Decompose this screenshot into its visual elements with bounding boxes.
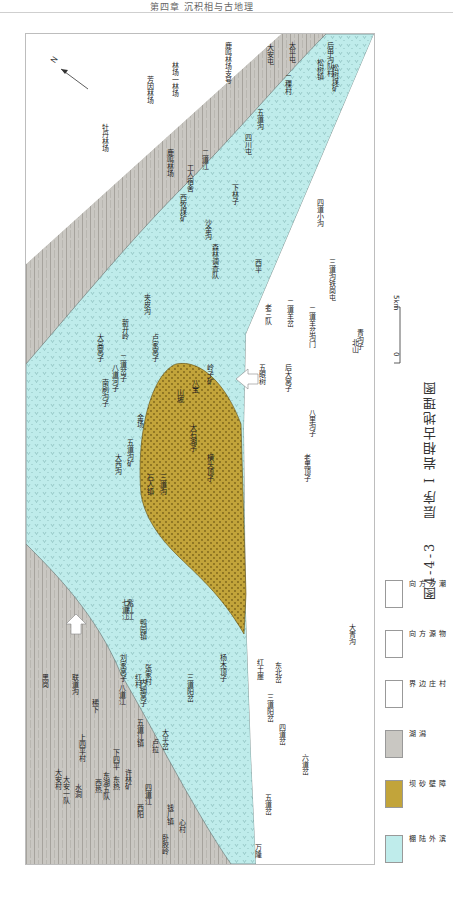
place-label: 水洞 [74, 784, 81, 798]
place-label: 芳因林场 [146, 76, 153, 104]
place-label: 沙金沟 [204, 219, 211, 240]
place-label: 太平屯 [288, 42, 295, 63]
place-label: 卢家窝子 [151, 334, 158, 362]
place-label: 稀下 [91, 699, 98, 713]
place-label: 八里沟子 [308, 409, 315, 437]
place-label: 心村 [178, 819, 185, 833]
place-label: 黑岗 [41, 674, 48, 688]
place-label: 三道阳岔 [186, 674, 193, 702]
place-label: 西牧煤矿 [179, 194, 186, 222]
place-label: 四道岔 [278, 724, 285, 745]
place-label: 五眼树 [258, 364, 265, 385]
place-label: 三道沟铁岗屯 [328, 259, 335, 301]
place-label: 杨木顶子 [219, 654, 226, 682]
place-label: 松树镇 [316, 59, 323, 80]
place-label: 大高窝子 [96, 334, 103, 362]
place-label: 二道羊岔沟门 [308, 306, 315, 348]
place-label: 钱厂镇 [166, 804, 173, 825]
place-label: 后大窝子 [284, 364, 291, 392]
source-direction-icon [385, 630, 403, 658]
place-label: 老黑顶子 [303, 454, 310, 482]
place-label: 四道江 [144, 784, 151, 805]
place-label: 山坡 [176, 389, 183, 403]
place-label: 八道江 [118, 684, 125, 705]
place-label: 大安村 [54, 769, 61, 790]
place-label: 三道沟 [159, 474, 166, 495]
place-label: 森林调查队 [211, 244, 218, 279]
place-label: 刘家窝子 [119, 654, 126, 682]
place-label: 大石湖子 [189, 424, 196, 452]
barrier-bar-swatch [385, 780, 403, 808]
place-label: 八宝 [191, 379, 198, 393]
place-label: 五道岔 [264, 794, 271, 815]
offshore-shelf-swatch [385, 835, 403, 863]
place-label: 青沟子 [356, 329, 363, 350]
place-label: 横头顶子 [206, 454, 213, 482]
place-label: 老三队 [264, 304, 271, 325]
paleogeography-map: N 鹿鸣林场支号 芳因林场 林场一林场 牡丹林场 西热 东湖五队 东热 大安村 … [25, 33, 375, 865]
place-label: 许林矿 [124, 769, 131, 790]
place-label: 红土崖 [256, 659, 263, 680]
place-label: 二棵村 [284, 74, 291, 95]
place-label: 夹皮沟 [143, 294, 150, 315]
place-label: 南刷沟子 [101, 379, 108, 407]
place-label: 石人镇 [146, 474, 153, 495]
place-label: 林场一林场 [171, 62, 178, 97]
lagoon-swatch [385, 730, 403, 758]
place-label: 四道小沟 [316, 199, 323, 227]
place-label: 工人宿舍 [186, 164, 193, 192]
place-label: 鹿鸣林场支号 [224, 42, 231, 84]
legend: 滨外陆棚 障壁砂坝 潟湖 村庄边界 物源方向 潮汐方向 [385, 580, 425, 880]
place-label: 东湖五队 [102, 772, 109, 800]
place-label: 新开岭 [121, 319, 128, 340]
place-label: 张家村 [144, 664, 151, 685]
place-label: 松树煤矿 [331, 64, 338, 92]
place-label: 下林子 [231, 184, 238, 205]
place-label: 西阳 [136, 804, 143, 818]
place-label: 大西沟 [114, 454, 121, 475]
place-label: 鸭园镇 [139, 619, 146, 640]
place-label: 五道沟 [256, 109, 263, 130]
place-label: 联道沟 [71, 674, 78, 695]
scale-length: 5km [392, 295, 400, 310]
place-label: 八道河子 [111, 364, 118, 392]
tide-direction-icon [385, 580, 403, 608]
place-label: 二道江 [201, 149, 208, 170]
place-label: 大青沟 [348, 624, 355, 645]
page-header: 第四章 沉积相与古地理 [0, 0, 453, 13]
place-label: 下四平 [112, 749, 119, 770]
place-label: 东热 [112, 776, 119, 790]
place-label: 六道岔 [301, 754, 308, 775]
page-header-text: 第四章 沉积相与古地理 [150, 0, 254, 13]
place-label: 四川屯 [244, 134, 251, 155]
place-label: 七道江 [121, 599, 128, 620]
figure-caption: 图4-4-3 层序 I 岩相古地理图 [420, 380, 439, 600]
place-label: 卢拉 [151, 739, 158, 753]
village-boundary-swatch [385, 680, 403, 708]
place-label: 三道阳岔 [266, 694, 273, 722]
place-label: 大安屯 [266, 44, 273, 65]
place-label: 大平岔 [161, 729, 168, 750]
place-label: 西平 [254, 259, 261, 273]
place-label: 上四平村 [78, 734, 85, 762]
place-label: 东北岔 [274, 662, 281, 683]
scale-zero: 0 [392, 352, 400, 356]
place-label: 岭子矿 [206, 364, 213, 385]
place-label: 二道羊岔 [286, 299, 293, 327]
place-label: 二道岔子 [119, 354, 126, 382]
place-label: 大安一队 [62, 776, 69, 804]
place-label: 牡丹林场 [101, 124, 108, 152]
place-label: 五道江镇 [136, 719, 143, 747]
figure-title: 层序 I 岩相古地理图 [422, 380, 437, 519]
place-label: 万隆 [254, 844, 261, 858]
place-label: 鹿鸣林场 [166, 149, 173, 177]
place-label: 西热 [94, 779, 101, 793]
place-label: 五道沟矿 [126, 439, 133, 467]
place-label: 金场 [136, 414, 143, 428]
place-label: 卧胶岭 [161, 834, 168, 855]
